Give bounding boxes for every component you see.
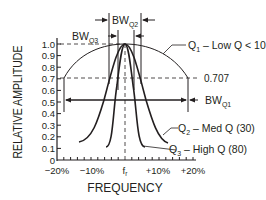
y-tick-0: 0 [50,155,55,166]
bw-q3-label: BWQ3 [72,30,98,45]
q1-curve [64,44,188,78]
y-tick-0-6: 0.6 [42,85,55,96]
y-tick-0-8: 0.8 [42,62,55,73]
bw-q1-marker [64,78,198,112]
q3-label: Q3 – High Q (80) [169,143,247,157]
bw-q3-marker [108,30,144,90]
x-axis-label: FREQUENCY [87,181,162,195]
q2-label: Q2 – Med Q (30) [178,122,255,136]
y-tick-0-1: 0.1 [42,143,55,154]
y-tick-1-0: 1.0 [42,39,55,50]
ref-0707-label: 0.707 [204,73,229,84]
x-tick-plus-10: +10% [146,165,171,176]
q3-curve [106,44,145,147]
bw-q2-label: BWQ2 [112,14,138,29]
y-tick-labels: 1.0 0.9 0.8 0.7 0.6 0.5 0.4 0.3 0.2 0.1 … [42,39,55,166]
series-leaders [143,45,186,150]
y-tick-0-5: 0.5 [42,97,55,108]
y-tick-0-7: 0.7 [42,73,55,84]
x-tick-labels: −20% −10% fr +10% +20% [45,165,206,177]
reference-lines [60,44,198,160]
q2-curve [79,44,168,143]
x-tick-fr: fr [123,165,129,177]
y-tick-0-9: 0.9 [42,50,55,61]
q1-label: Q1 – Low Q < 10 [188,39,266,53]
y-tick-0-4: 0.4 [42,108,55,119]
bw-q1-label: BWQ1 [205,94,231,109]
x-tick-minus-20: −20% [45,165,70,176]
resonance-q-chart: RELATIVE AMPLITUDE 1.0 0.9 0.8 0.7 0.6 0… [0,0,266,200]
y-tick-0-2: 0.2 [42,131,55,142]
x-tick-plus-20: +20% [181,165,206,176]
y-tick-0-3: 0.3 [42,120,55,131]
y-axis-label: RELATIVE AMPLITUDE [11,46,25,159]
x-tick-minus-10: −10% [80,165,105,176]
